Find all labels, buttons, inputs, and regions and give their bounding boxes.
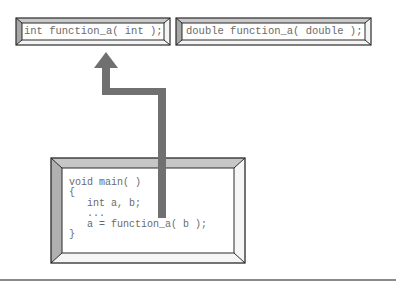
code-line: void main( ) [69, 178, 207, 188]
bottom-rule [0, 279, 396, 281]
prototype-int-text: int function_a( int ); [24, 25, 163, 37]
diagram-canvas [0, 0, 396, 283]
arrowhead-icon [94, 52, 118, 68]
code-line: } [69, 230, 207, 240]
code-line-call: a = function_a( b ); [69, 220, 207, 230]
main-code-block: void main( ) { int a, b; ... a = functio… [69, 178, 207, 240]
prototype-double-text: double function_a( double ); [186, 25, 362, 37]
